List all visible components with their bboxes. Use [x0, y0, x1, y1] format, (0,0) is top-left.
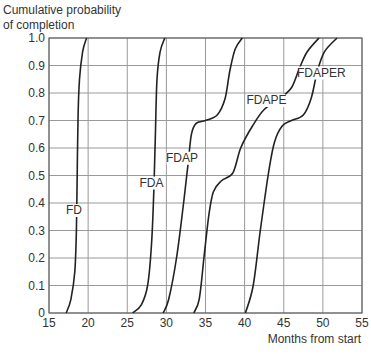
y-tick-label: 0.9	[28, 59, 45, 73]
y-tick-label: 0.7	[28, 114, 45, 128]
series-label-fdape: FDAPE	[247, 93, 287, 107]
y-tick-label: 0.5	[28, 169, 45, 183]
x-tick-label: 40	[238, 316, 252, 330]
y-tick-label: 1.0	[28, 31, 45, 45]
y-tick-label: 0.8	[28, 86, 45, 100]
y-tick-label: 0.3	[28, 224, 45, 238]
x-tick-label: 35	[199, 316, 213, 330]
x-tick-label: 25	[121, 316, 135, 330]
x-tick-label: 30	[160, 316, 174, 330]
series-label-fd: FD	[66, 203, 82, 217]
x-tick-label: 50	[316, 316, 330, 330]
x-tick-label: 20	[81, 316, 95, 330]
series-label-fdaper: FDAPER	[297, 66, 346, 80]
y-tick-label: 0.6	[28, 141, 45, 155]
x-tick-label: 55	[355, 316, 369, 330]
chart-plot: 15202530354045505500.10.20.30.40.50.60.7…	[0, 0, 371, 354]
y-tick-label: 0.4	[28, 196, 45, 210]
series-label-fdap: FDAP	[166, 151, 198, 165]
x-tick-label: 45	[277, 316, 291, 330]
y-tick-label: 0.2	[28, 251, 45, 265]
y-tick-label: 0.1	[28, 279, 45, 293]
y-tick-label: 0	[38, 306, 45, 320]
series-label-fda: FDA	[140, 176, 164, 190]
